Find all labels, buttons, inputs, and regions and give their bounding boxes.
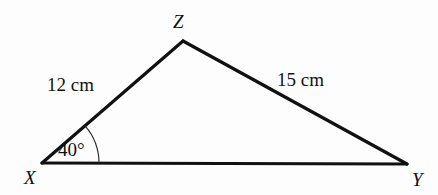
triangle-diagram: X Y Z 12 cm 15 cm 40° bbox=[0, 0, 438, 195]
triangle-figure: X Y Z 12 cm 15 cm 40° bbox=[0, 0, 438, 195]
angle-arc-x bbox=[85, 126, 99, 163]
vertex-label-z: Z bbox=[173, 11, 184, 32]
side-label-zy: 15 cm bbox=[277, 69, 324, 90]
side-label-xz: 12 cm bbox=[47, 74, 94, 95]
angle-label-x: 40° bbox=[58, 139, 85, 160]
vertex-label-y: Y bbox=[412, 169, 425, 190]
side-xy-line bbox=[42, 163, 407, 164]
vertex-label-x: X bbox=[23, 167, 37, 188]
side-zy-line bbox=[183, 41, 407, 164]
